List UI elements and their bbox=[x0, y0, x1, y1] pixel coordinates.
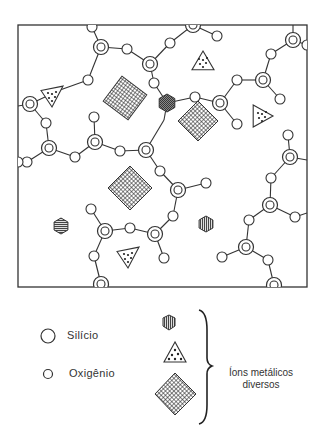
brace-icon bbox=[199, 310, 212, 424]
oxygen-atom-icon bbox=[244, 215, 254, 225]
ions-caption: Íons metálicos diversos bbox=[216, 367, 306, 391]
triangle-ion-icon bbox=[253, 105, 273, 127]
oxygen-atom-icon bbox=[190, 92, 200, 102]
oxygen-atom-icon bbox=[89, 112, 99, 122]
oxygen-legend-icon bbox=[44, 370, 53, 379]
triangle-ion-icon bbox=[117, 247, 139, 268]
silicon-label: Silício bbox=[67, 329, 98, 341]
oxygen-atom-icon bbox=[159, 253, 169, 263]
oxygen-atom-icon bbox=[83, 75, 93, 85]
oxygen-label: Oxigênio bbox=[69, 367, 115, 379]
silicon-atom-inner-icon bbox=[286, 153, 294, 161]
oxygen-atom-icon bbox=[149, 78, 159, 88]
silicon-atom-inner-icon bbox=[189, 21, 197, 29]
silicon-atom-inner-icon bbox=[91, 138, 99, 146]
dot-icon bbox=[51, 100, 53, 102]
hexagon-ion-legend-icon bbox=[163, 315, 175, 330]
oxygen-atom-icon bbox=[266, 173, 276, 183]
dot-icon bbox=[51, 93, 53, 95]
dot-icon bbox=[261, 113, 263, 115]
oxygen-atom-icon bbox=[302, 40, 312, 50]
diamond-ion-legend-icon bbox=[155, 373, 196, 415]
diamond-ion-icon bbox=[178, 101, 218, 141]
silicon-atom-inner-icon bbox=[101, 227, 109, 235]
silicon-atom-inner-icon bbox=[270, 281, 278, 289]
oxygen-atom-icon bbox=[87, 22, 97, 32]
oxygen-atom-icon bbox=[232, 75, 242, 85]
dot-icon bbox=[130, 257, 132, 259]
silicon-atom-inner-icon bbox=[242, 243, 250, 251]
silicon-atom-inner-icon bbox=[174, 186, 182, 194]
oxygen-atom-icon bbox=[89, 251, 99, 261]
oxygen-atom-icon bbox=[275, 94, 285, 104]
silicon-atom-inner-icon bbox=[151, 230, 159, 238]
dot-icon bbox=[127, 261, 129, 263]
dot-icon bbox=[258, 117, 260, 119]
silicon-legend-icon bbox=[41, 329, 55, 343]
dot-icon bbox=[48, 97, 50, 99]
oxygen-atom-icon bbox=[263, 255, 273, 265]
silicon-atom-inner-icon bbox=[97, 43, 105, 51]
oxygen-atom-icon bbox=[212, 31, 222, 41]
dot-icon bbox=[131, 252, 133, 254]
dot-icon bbox=[47, 92, 49, 94]
silicon-atom-inner-icon bbox=[216, 99, 224, 107]
triangle-ion-icon bbox=[41, 86, 63, 107]
hexagon-ion-icon bbox=[199, 216, 213, 232]
ions-caption-line1: Íons metálicos bbox=[216, 367, 306, 379]
hexagon-ion-icon bbox=[159, 94, 175, 112]
oxygen-atom-icon bbox=[70, 152, 80, 162]
legend bbox=[41, 310, 212, 424]
oxygen-atom-icon bbox=[168, 211, 178, 221]
atoms bbox=[13, 18, 312, 293]
dot-icon bbox=[265, 111, 267, 113]
oxygen-atom-icon bbox=[283, 130, 293, 140]
dot-icon bbox=[202, 59, 204, 61]
oxygen-atom-icon bbox=[122, 44, 132, 54]
bond-lines bbox=[18, 25, 307, 285]
hexagon-ion-icon bbox=[54, 218, 68, 234]
dot-icon bbox=[123, 253, 125, 255]
silicon-atom-inner-icon bbox=[289, 36, 297, 44]
oxygen-atom-icon bbox=[86, 204, 96, 214]
oxygen-atom-icon bbox=[13, 157, 23, 167]
oxygen-atom-icon bbox=[290, 212, 300, 222]
dot-icon bbox=[124, 258, 126, 260]
oxygen-atom-icon bbox=[41, 118, 51, 128]
silicon-atom-inner-icon bbox=[259, 76, 267, 84]
diagram-frame bbox=[18, 25, 307, 287]
dot-icon bbox=[198, 58, 200, 60]
silicon-atom-inner-icon bbox=[146, 60, 154, 68]
silicon-atom-inner-icon bbox=[97, 280, 105, 288]
dot-icon bbox=[206, 57, 208, 59]
ions-caption-line2: diversos bbox=[216, 379, 306, 391]
oxygen-atom-icon bbox=[165, 38, 175, 48]
dot-icon bbox=[199, 63, 201, 65]
diamond-ion-icon bbox=[108, 166, 152, 210]
dot-icon bbox=[54, 96, 56, 98]
oxygen-atom-icon bbox=[232, 119, 242, 129]
oxygen-atom-icon bbox=[201, 178, 211, 188]
oxygen-atom-icon bbox=[266, 49, 276, 59]
oxygen-atom-icon bbox=[115, 146, 125, 156]
silicon-atom-inner-icon bbox=[266, 201, 274, 209]
dot-icon bbox=[264, 116, 266, 118]
silicon-atom-inner-icon bbox=[45, 144, 53, 152]
dot-icon bbox=[205, 62, 207, 64]
dot-icon bbox=[261, 120, 263, 122]
silicon-atom-inner-icon bbox=[26, 100, 34, 108]
dot-icon bbox=[257, 112, 259, 114]
oxygen-atom-icon bbox=[125, 223, 135, 233]
silicon-atom-inner-icon bbox=[142, 146, 150, 154]
diamond-ion-icon bbox=[100, 73, 150, 123]
dot-icon bbox=[202, 66, 204, 68]
oxygen-atom-icon bbox=[155, 166, 165, 176]
dot-icon bbox=[55, 91, 57, 93]
oxygen-atom-icon bbox=[217, 252, 227, 262]
dot-icon bbox=[127, 254, 129, 256]
